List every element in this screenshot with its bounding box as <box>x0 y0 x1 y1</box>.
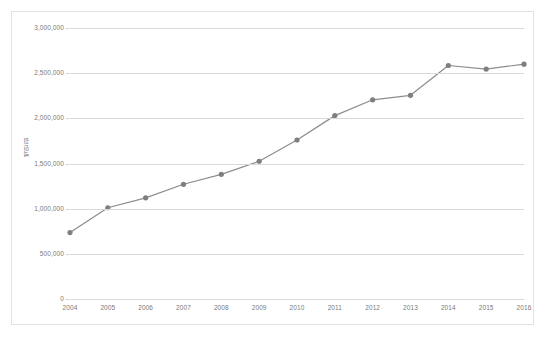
data-point-marker <box>67 230 72 235</box>
y-axis-tick-mark <box>66 73 69 74</box>
data-point-marker <box>446 63 451 68</box>
gridline <box>70 254 524 255</box>
data-point-marker <box>484 67 489 72</box>
x-axis-tick-label: 2011 <box>328 305 342 312</box>
x-axis-tick-label: 2006 <box>138 305 153 312</box>
data-point-marker <box>219 172 224 177</box>
y-axis-tick-mark <box>66 254 69 255</box>
y-axis-tick-label: 3,000,000 <box>34 25 64 32</box>
gridline <box>70 299 524 300</box>
x-axis-tick-label: 2005 <box>100 305 115 312</box>
x-axis-tick-label: 2009 <box>252 305 267 312</box>
y-axis-tick-label: 2,000,000 <box>34 115 64 122</box>
data-point-marker <box>370 97 375 102</box>
y-axis-tick-mark <box>66 164 69 165</box>
data-point-marker <box>181 182 186 187</box>
x-axis-tick-label: 2007 <box>176 305 191 312</box>
gridline <box>70 28 524 29</box>
x-axis-tick-label: 2010 <box>290 305 305 312</box>
x-axis-tick-label: 2014 <box>441 305 456 312</box>
chart-container: 백만원 0500,0001,000,0001,500,0002,000,0002… <box>0 0 549 340</box>
gridline <box>70 118 524 119</box>
y-axis-tick-labels: 0500,0001,000,0001,500,0002,000,0002,500… <box>0 28 64 299</box>
gridline <box>70 209 524 210</box>
y-axis-tick-mark <box>66 118 69 119</box>
gridline <box>70 164 524 165</box>
y-axis-tick-mark <box>66 28 69 29</box>
y-axis-tick-label: 2,500,000 <box>34 70 64 77</box>
series-line <box>70 64 524 232</box>
y-axis-tick-mark <box>66 209 69 210</box>
x-axis-tick-label: 2013 <box>403 305 418 312</box>
x-axis-tick-label: 2008 <box>214 305 229 312</box>
data-point-marker <box>521 62 526 67</box>
x-axis-tick-label: 2016 <box>517 305 532 312</box>
x-axis-tick-label: 2012 <box>365 305 380 312</box>
plot-area <box>70 28 524 299</box>
data-point-marker <box>408 93 413 98</box>
y-axis-tick-label: 500,000 <box>40 251 64 258</box>
y-axis-tick-mark <box>66 299 69 300</box>
y-axis-tick-label: 0 <box>60 296 64 303</box>
gridline <box>70 73 524 74</box>
y-axis-tick-label: 1,000,000 <box>34 205 64 212</box>
x-axis-tick-label: 2015 <box>479 305 494 312</box>
data-point-marker <box>143 195 148 200</box>
data-point-marker <box>294 137 299 142</box>
x-axis-tick-label: 2004 <box>63 305 78 312</box>
y-axis-tick-label: 1,500,000 <box>34 160 64 167</box>
x-axis-tick-labels: 2004200520062007200820092010201120122013… <box>70 303 524 319</box>
